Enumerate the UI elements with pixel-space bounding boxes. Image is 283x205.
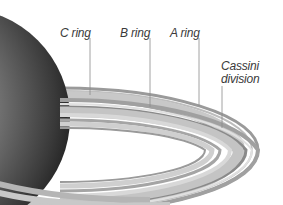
label-cassini-line2: division [221, 73, 259, 86]
label-c-ring: C ring [60, 27, 91, 40]
label-b-ring: B ring [120, 27, 150, 40]
label-a-ring: A ring [170, 27, 200, 40]
saturn-diagram: C ring B ring A ring Cassini division [0, 0, 283, 205]
